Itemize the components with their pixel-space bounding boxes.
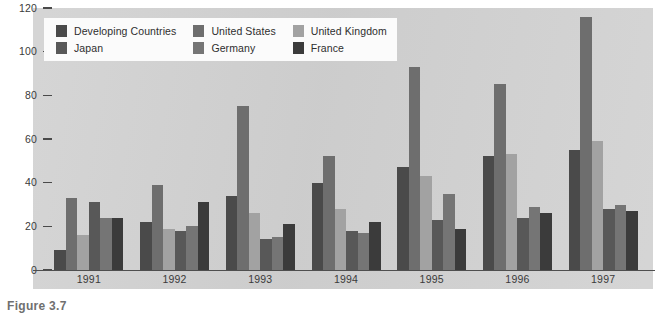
bar[interactable] [163, 229, 175, 270]
legend-item[interactable]: Developing Countries [56, 25, 176, 37]
bar[interactable] [66, 198, 78, 270]
bar[interactable] [323, 156, 335, 270]
bar[interactable] [455, 229, 467, 270]
figure: 020406080100120 199119921993199419951996… [0, 0, 661, 314]
bar[interactable] [152, 185, 164, 270]
x-axis-tick-label: 1994 [334, 273, 358, 285]
y-axis-tick-label: 120 [19, 3, 37, 14]
bar[interactable] [529, 207, 541, 270]
bar[interactable] [198, 202, 210, 270]
bar[interactable] [346, 231, 358, 270]
legend-item-label: United Kingdom [311, 26, 387, 37]
bar[interactable] [580, 17, 592, 270]
legend-item-label: Germany [211, 43, 255, 54]
y-axis-tick-label: 100 [19, 46, 37, 57]
y-axis-tick-label: 40 [25, 177, 37, 188]
x-axis-tick-label: 1996 [505, 273, 529, 285]
bar[interactable] [260, 239, 272, 270]
bar[interactable] [494, 84, 506, 270]
bar[interactable] [420, 176, 432, 270]
bar[interactable] [249, 213, 261, 270]
bar-group [483, 8, 552, 270]
bar[interactable] [443, 194, 455, 270]
x-axis-line [33, 270, 655, 272]
legend-swatch-icon [193, 25, 204, 37]
bar[interactable] [54, 250, 66, 270]
legend-swatch-icon [56, 25, 67, 37]
bar[interactable] [369, 222, 381, 270]
bar[interactable] [483, 156, 495, 270]
legend-swatch-icon [293, 42, 304, 54]
legend-item-label: France [311, 43, 344, 54]
bar[interactable] [603, 209, 615, 270]
bar[interactable] [89, 202, 101, 270]
bar-group [397, 8, 466, 270]
legend-swatch-icon [56, 42, 67, 54]
bar[interactable] [397, 167, 409, 270]
legend-item[interactable]: Japan [56, 42, 176, 54]
bar[interactable] [517, 218, 529, 270]
figure-caption: Figure 3.7 [7, 299, 67, 313]
bar[interactable] [335, 209, 347, 270]
legend-item[interactable]: Germany [193, 42, 275, 54]
bar[interactable] [312, 183, 324, 270]
bar[interactable] [175, 231, 187, 270]
x-axis-tick-label: 1992 [162, 273, 186, 285]
x-axis-tick-label: 1995 [420, 273, 444, 285]
legend-item-label: United States [211, 26, 275, 37]
bar[interactable] [358, 233, 370, 270]
bar[interactable] [506, 154, 518, 270]
y-axis-tick-label: 60 [25, 134, 37, 145]
bar[interactable] [626, 211, 638, 270]
y-axis-tick-label: 20 [25, 221, 37, 232]
chart-legend: Developing CountriesUnited StatesUnited … [44, 18, 397, 61]
bar[interactable] [569, 150, 581, 270]
bar-group [569, 8, 638, 270]
bar[interactable] [272, 237, 284, 270]
bar[interactable] [409, 67, 421, 270]
bar[interactable] [77, 235, 89, 270]
bar[interactable] [140, 222, 152, 270]
bar[interactable] [186, 226, 198, 270]
bar[interactable] [100, 218, 112, 270]
x-axis-tick-label: 1993 [248, 273, 272, 285]
x-axis: 1991199219931994199519961997 [46, 273, 646, 293]
y-axis-tick-label: 80 [25, 90, 37, 101]
bar[interactable] [237, 106, 249, 270]
bar[interactable] [615, 205, 627, 271]
bar[interactable] [226, 196, 238, 270]
x-axis-tick-label: 1997 [591, 273, 615, 285]
bar[interactable] [592, 141, 604, 270]
legend-swatch-icon [193, 42, 204, 54]
legend-item-label: Japan [74, 43, 103, 54]
bar[interactable] [540, 213, 552, 270]
legend-item[interactable]: United Kingdom [293, 25, 387, 37]
legend-item[interactable]: United States [193, 25, 275, 37]
bar[interactable] [112, 218, 124, 270]
x-axis-tick-label: 1991 [77, 273, 101, 285]
legend-item[interactable]: France [293, 42, 387, 54]
legend-swatch-icon [293, 25, 304, 37]
legend-item-label: Developing Countries [74, 26, 176, 37]
bar[interactable] [432, 220, 444, 270]
bar[interactable] [283, 224, 295, 270]
